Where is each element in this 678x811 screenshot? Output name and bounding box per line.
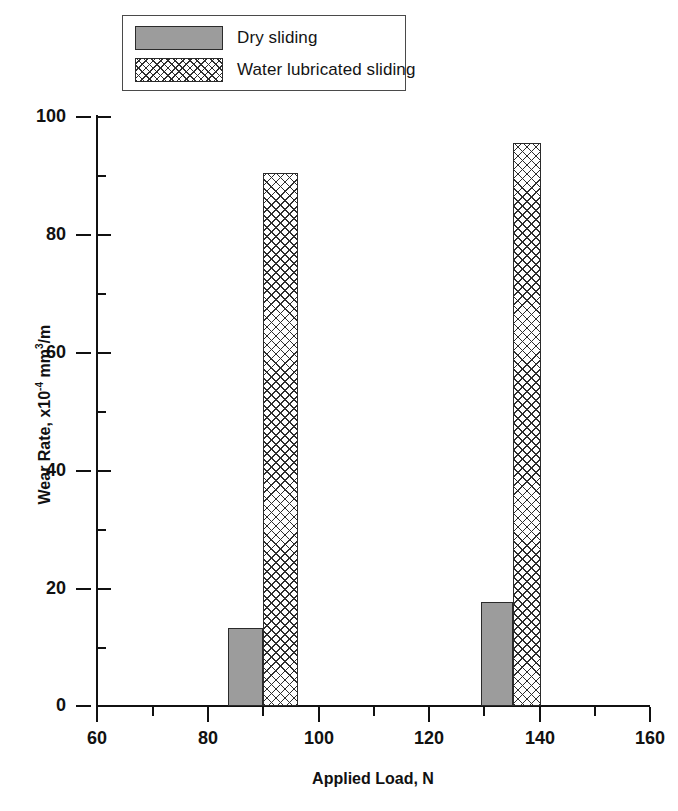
bar-dry-sliding-85 bbox=[228, 628, 263, 706]
chart-legend: Dry sliding Water lubricated sliding bbox=[122, 15, 406, 91]
y-tick-100 bbox=[98, 116, 111, 118]
y-tick-minor-70 bbox=[98, 293, 106, 295]
y-axis-label: Wear Rate, x10-4 mm3/m bbox=[34, 265, 53, 565]
legend-label-water-lubricated-sliding: Water lubricated sliding bbox=[237, 60, 415, 80]
x-tick-140 bbox=[539, 707, 541, 722]
x-tick-minor-70 bbox=[152, 707, 154, 716]
y-tick-label-20: 20 bbox=[14, 578, 66, 599]
x-tick-80 bbox=[207, 707, 209, 722]
y-tick-label-80: 80 bbox=[14, 224, 66, 245]
legend-item-water-lubricated-sliding: Water lubricated sliding bbox=[135, 56, 415, 84]
x-tick-160 bbox=[649, 707, 651, 722]
y-tick-dash-80 bbox=[76, 234, 91, 236]
crosshatch-swatch-icon bbox=[135, 58, 223, 82]
y-tick-minor-10 bbox=[98, 647, 106, 649]
y-tick-minor-50 bbox=[98, 411, 106, 413]
x-tick-minor-130 bbox=[483, 707, 485, 716]
y-tick-dash-60 bbox=[76, 352, 91, 354]
y-tick-label-0: 0 bbox=[14, 695, 66, 716]
solid-gray-swatch-icon bbox=[135, 26, 223, 50]
x-tick-100 bbox=[318, 707, 320, 722]
x-tick-label-160: 160 bbox=[620, 728, 678, 749]
y-tick-minor-90 bbox=[98, 175, 106, 177]
y-tick-80 bbox=[98, 234, 111, 236]
x-axis-label: Applied Load, N bbox=[96, 770, 650, 788]
wear-rate-bar-chart: Dry sliding Water lubricated sliding 100… bbox=[0, 0, 678, 811]
y-tick-dash-40 bbox=[76, 470, 91, 472]
x-tick-minor-150 bbox=[594, 707, 596, 716]
y-tick-dash-0 bbox=[76, 705, 91, 707]
x-tick-label-60: 60 bbox=[67, 728, 127, 749]
x-tick-120 bbox=[428, 707, 430, 722]
x-tick-minor-110 bbox=[373, 707, 375, 716]
x-tick-label-100: 100 bbox=[289, 728, 349, 749]
y-tick-dash-100 bbox=[76, 116, 91, 118]
y-tick-label-100: 100 bbox=[14, 106, 66, 127]
legend-item-dry-sliding: Dry sliding bbox=[135, 24, 317, 52]
y-tick-minor-30 bbox=[98, 529, 106, 531]
x-tick-minor-90 bbox=[262, 707, 264, 716]
bar-water-lubricated-sliding-85 bbox=[263, 173, 298, 706]
x-tick-label-80: 80 bbox=[178, 728, 238, 749]
y-tick-60 bbox=[98, 352, 111, 354]
y-tick-40 bbox=[98, 470, 111, 472]
bar-dry-sliding-130 bbox=[481, 602, 513, 706]
bar-water-lubricated-sliding-130 bbox=[513, 143, 541, 706]
x-tick-60 bbox=[96, 707, 98, 722]
x-tick-label-140: 140 bbox=[510, 728, 570, 749]
legend-label-dry-sliding: Dry sliding bbox=[237, 28, 317, 48]
y-tick-dash-20 bbox=[76, 588, 91, 590]
y-tick-20 bbox=[98, 588, 111, 590]
y-tick-0 bbox=[98, 705, 111, 707]
x-tick-label-120: 120 bbox=[399, 728, 459, 749]
